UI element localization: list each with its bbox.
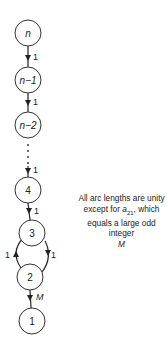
- edge-n-to-n-1: 1: [25, 46, 38, 67]
- edge-label: 1: [33, 52, 38, 62]
- graph-canvas: 1 1 1 1 1 1 M n: [0, 0, 167, 339]
- node-n: n: [15, 20, 41, 46]
- note-line-1: All arc lengths are unity: [76, 193, 167, 204]
- note-text: , which: [134, 204, 160, 214]
- note-line-2: except for a21, which: [76, 204, 167, 218]
- node-label: n−1: [20, 75, 37, 86]
- edge-2-to-1: M: [27, 290, 44, 308]
- edge-n-2-to-4-ellipsis: 1: [25, 144, 38, 177]
- node-1: 1: [19, 308, 45, 334]
- node-label: 1: [29, 316, 35, 327]
- note-line-3: equals a large odd integer: [76, 218, 167, 239]
- edge-label: 1: [34, 206, 39, 216]
- arrow-up-icon: [13, 251, 19, 257]
- node-label: 2: [27, 272, 33, 283]
- arrow-down-icon: [26, 208, 32, 214]
- edge-4-to-3: 1: [26, 203, 39, 220]
- edge-label: 1: [5, 250, 10, 260]
- edge-label: M: [36, 292, 44, 302]
- node-3: 3: [19, 220, 45, 246]
- note-subscript: 21: [127, 209, 134, 215]
- edge-n-1-to-n-2: 1: [25, 93, 38, 112]
- node-4: 4: [15, 177, 41, 203]
- node-n-1: n−1: [15, 67, 41, 93]
- note-line-4: M: [76, 239, 167, 250]
- node-label: 3: [29, 228, 35, 239]
- edge-2-to-3-left: 1: [5, 238, 23, 268]
- node-label: n−2: [20, 120, 37, 131]
- arrow-down-icon: [25, 55, 31, 61]
- edge-label: 1: [33, 165, 38, 175]
- edge-label: 1: [33, 97, 38, 107]
- arrow-down-icon: [25, 100, 31, 106]
- arrow-down-icon: [27, 295, 33, 301]
- arc-length-note: All arc lengths are unity except for a21…: [76, 193, 167, 250]
- node-n-2: n−2: [15, 112, 41, 138]
- edge-label: 1: [51, 250, 56, 260]
- edge-3-to-2-right: 1: [42, 241, 56, 272]
- node-2: 2: [17, 264, 43, 290]
- note-text: except for: [84, 204, 123, 214]
- node-label: 4: [25, 185, 31, 196]
- node-label: n: [25, 28, 31, 39]
- arrow-down-icon: [25, 168, 31, 174]
